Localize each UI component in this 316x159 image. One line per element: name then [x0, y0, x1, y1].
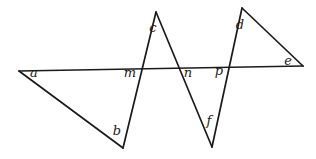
- point-label-p: p: [215, 63, 224, 78]
- figure-canvas: abcdefmnp: [0, 0, 316, 159]
- point-label-e: e: [284, 53, 292, 68]
- edge-d-e: [242, 8, 303, 66]
- point-label-a: a: [30, 65, 38, 80]
- point-label-n: n: [184, 65, 192, 80]
- point-label-m: m: [124, 65, 136, 80]
- point-label-b: b: [113, 123, 121, 138]
- edge-a-b: [19, 71, 123, 148]
- edge-a-e: [19, 66, 303, 71]
- edges-group: [19, 8, 303, 148]
- point-label-c: c: [149, 20, 157, 35]
- point-label-f: f: [206, 113, 214, 128]
- labels-group: abcdefmnp: [30, 17, 292, 138]
- point-label-d: d: [236, 17, 244, 32]
- geometry-diagram: abcdefmnp: [0, 0, 316, 159]
